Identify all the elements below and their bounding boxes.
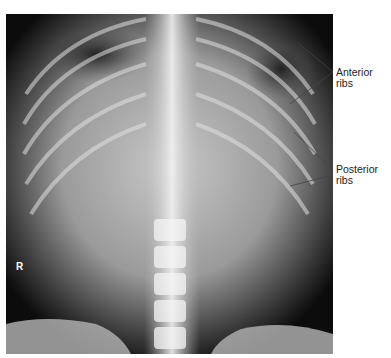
label-anterior-ribs: Anterior ribs xyxy=(336,67,391,89)
label-posterior-line2: ribs xyxy=(336,175,378,186)
radiograph-image: R xyxy=(6,14,333,354)
xray-illustration xyxy=(6,14,333,354)
label-posterior-ribs: Posterior ribs xyxy=(336,164,378,186)
side-marker-r: R xyxy=(16,261,23,272)
